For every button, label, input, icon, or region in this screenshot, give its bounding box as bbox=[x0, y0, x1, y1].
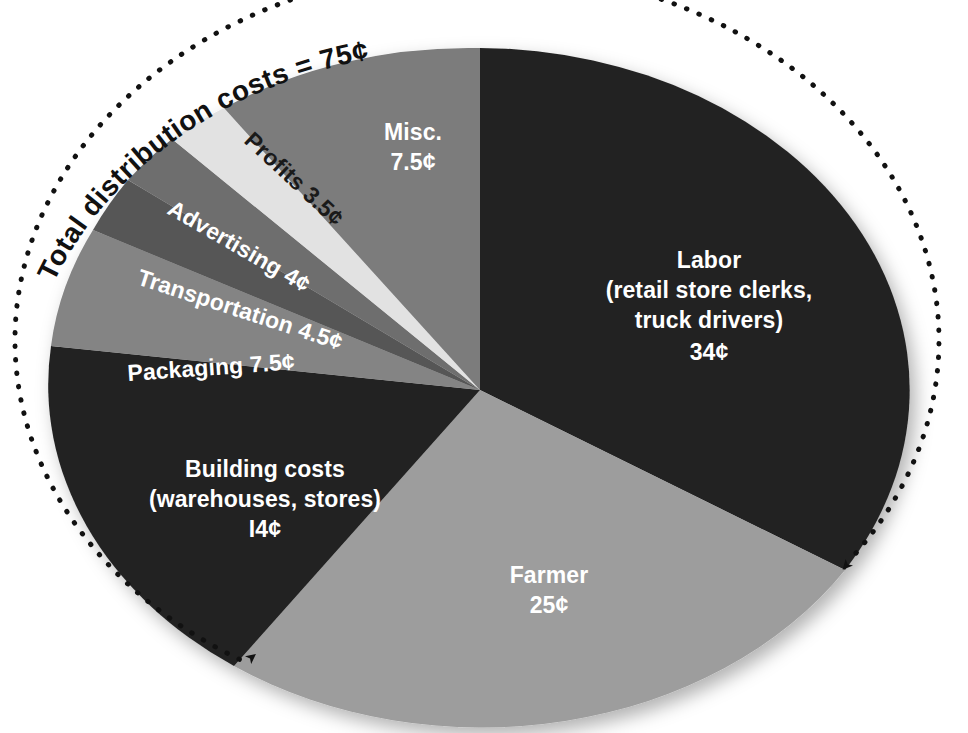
labor-line1: Labor bbox=[677, 247, 741, 273]
farmer-amount: 25¢ bbox=[530, 592, 569, 618]
labor-line2: (retail store clerks, bbox=[606, 277, 813, 303]
building-line2: (warehouses, stores) bbox=[149, 486, 381, 512]
labor-line3: truck drivers) bbox=[635, 307, 783, 333]
pie-chart-figure: Total distribution costs = 75¢ Labor (re… bbox=[0, 0, 968, 733]
building-amount: I4¢ bbox=[249, 516, 281, 542]
labor-amount: 34¢ bbox=[690, 339, 729, 365]
building-line1: Building costs bbox=[185, 456, 345, 482]
farmer-line1: Farmer bbox=[510, 562, 589, 588]
pie-chart-canvas: Total distribution costs = 75¢ Labor (re… bbox=[0, 0, 968, 733]
misc-amount: 7.5¢ bbox=[390, 149, 435, 175]
misc-line1: Misc. bbox=[384, 119, 442, 145]
pie-slices-group bbox=[48, 48, 909, 728]
